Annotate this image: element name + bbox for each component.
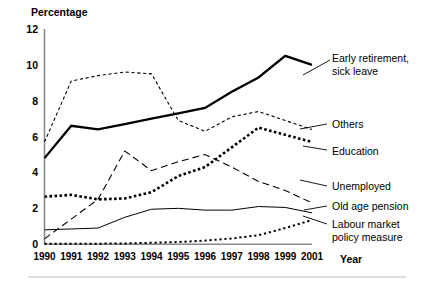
y-tick-2: 2: [32, 202, 38, 214]
y-tick-12: 12: [26, 23, 38, 35]
legend-label-early-retirement-line1: Early retirement,: [332, 52, 409, 64]
legend-label-unemployed: Unemployed: [332, 180, 391, 192]
x-tick-1994: 1994: [140, 251, 163, 262]
legend-label-labour-market-line2: policy measure: [332, 231, 403, 243]
legend-label-labour-market-line1: Labour market: [332, 218, 400, 230]
legend-label-old-age-pension: Old age pension: [332, 200, 409, 212]
x-tick-1996: 1996: [194, 251, 217, 262]
x-tick-1993: 1993: [114, 251, 137, 262]
x-tick-1995: 1995: [167, 251, 190, 262]
line-chart: Percentage 024681012 1990199119921993199…: [0, 0, 421, 284]
x-tick-1997: 1997: [221, 251, 244, 262]
chart-container: Percentage 024681012 1990199119921993199…: [0, 0, 421, 284]
legend-label-education: Education: [332, 145, 379, 157]
y-tick-8: 8: [32, 95, 38, 107]
x-tick-2001: 2001: [301, 251, 324, 262]
legend-label-others: Others: [332, 118, 364, 130]
y-tick-10: 10: [26, 59, 38, 71]
y-tick-6: 6: [32, 131, 38, 143]
y-axis-title: Percentage: [31, 6, 88, 18]
legend-label-early-retirement-line2: sick leave: [332, 65, 378, 77]
x-tick-1991: 1991: [60, 251, 83, 262]
x-axis-title: Year: [340, 253, 362, 265]
x-tick-1998: 1998: [247, 251, 270, 262]
x-tick-1990: 1990: [33, 251, 56, 262]
y-tick-4: 4: [32, 166, 38, 178]
x-tick-1999: 1999: [274, 251, 297, 262]
x-axis-tick-labels: 1990199119921993199419951996199719981999…: [33, 251, 323, 262]
y-tick-0: 0: [32, 238, 38, 250]
x-tick-1992: 1992: [87, 251, 110, 262]
